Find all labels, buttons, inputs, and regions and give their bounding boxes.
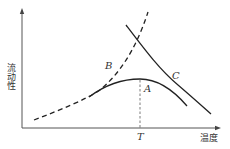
curve-c bbox=[126, 25, 211, 114]
curve-b bbox=[34, 12, 148, 120]
curve-a bbox=[89, 79, 187, 106]
curve-b-label: B bbox=[105, 61, 112, 71]
curve-c-label: C bbox=[172, 71, 180, 81]
x-axis-arrow-icon bbox=[215, 126, 221, 130]
curve-a-label: A bbox=[144, 84, 151, 94]
y-axis-label: 流动性 bbox=[6, 63, 16, 90]
x-axis-label: 温度 bbox=[200, 133, 218, 143]
diagram-canvas bbox=[0, 0, 230, 149]
t-marker-label: T bbox=[137, 132, 144, 142]
flowability-temperature-diagram: B C A T 流动性 温度 bbox=[0, 0, 230, 149]
y-axis-arrow-icon bbox=[20, 8, 24, 14]
